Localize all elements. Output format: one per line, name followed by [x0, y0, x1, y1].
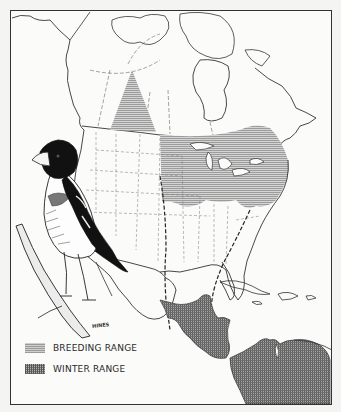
winter-range-south-america: [230, 339, 330, 404]
bird-eye: [57, 155, 60, 158]
legend-label: WINTER RANGE: [53, 364, 125, 374]
legend-item-winter: WINTER RANGE: [25, 359, 137, 379]
winter-range-swatch: [25, 364, 45, 374]
alaska-border: [70, 12, 90, 40]
breeding-range-swatch: [25, 343, 45, 353]
baja: [96, 262, 112, 296]
legend-label: BREEDING RANGE: [53, 343, 137, 353]
legend-item-breeding: BREEDING RANGE: [25, 338, 137, 358]
hudson-bay: [193, 60, 230, 121]
grosbeak-illustration: [16, 140, 128, 338]
winter-range-central-america: [160, 295, 230, 359]
alaska-coast: [12, 15, 84, 130]
map-legend: BREEDING RANGE WINTER RANGE: [25, 338, 137, 380]
cuba: [220, 281, 270, 295]
bird-beak: [32, 152, 50, 166]
arctic-islands: [112, 12, 270, 66]
migration-route-east: [211, 210, 250, 330]
